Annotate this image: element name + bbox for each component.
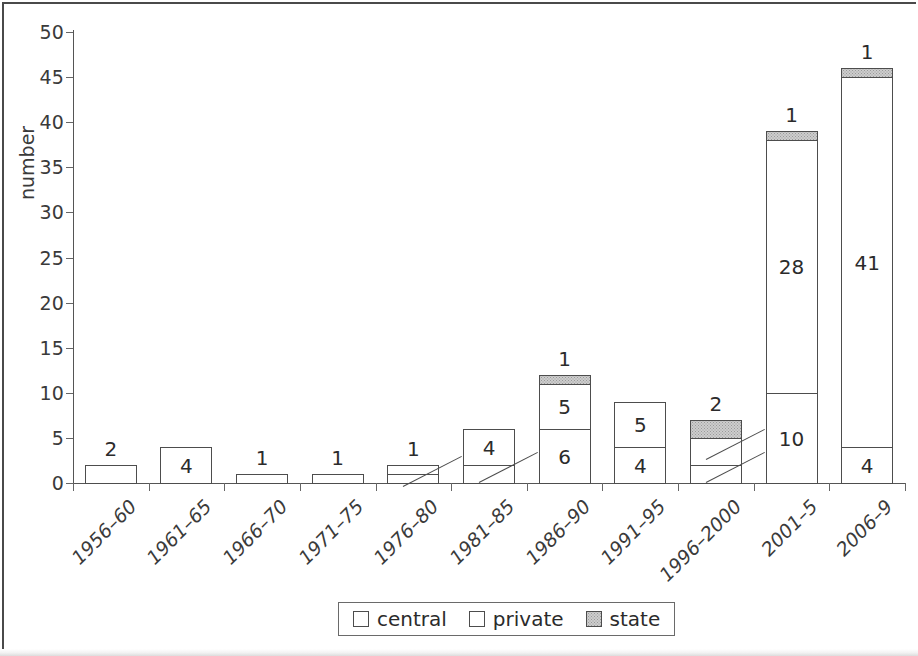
x-axis-label: 1961–65 bbox=[142, 495, 216, 569]
bar-segment-state[interactable] bbox=[766, 131, 818, 141]
bar-segment-value: 4 bbox=[634, 456, 647, 476]
x-tick-mark bbox=[300, 483, 301, 491]
x-axis-label: 1966–70 bbox=[218, 495, 292, 569]
x-tick-mark bbox=[754, 483, 755, 491]
legend-swatch-state bbox=[586, 611, 602, 627]
legend-swatch-central bbox=[353, 611, 369, 627]
figure-frame-top bbox=[2, 2, 916, 4]
bar-total-label: 1 bbox=[558, 347, 571, 371]
y-tick-label: 5 bbox=[52, 427, 64, 449]
bar-total-label: 1 bbox=[785, 103, 798, 127]
x-tick-mark bbox=[376, 483, 377, 491]
x-axis-label: 1971–75 bbox=[294, 495, 368, 569]
x-tick-mark bbox=[451, 483, 452, 491]
bar-segment-value: 4 bbox=[180, 456, 193, 476]
x-tick-mark bbox=[602, 483, 603, 491]
bar-segment-central[interactable] bbox=[85, 465, 137, 484]
bar-segment-value: 5 bbox=[558, 397, 571, 417]
y-tick-label: 50 bbox=[39, 21, 64, 43]
bar-segment-central[interactable]: 6 bbox=[539, 429, 591, 484]
y-tick-mark bbox=[66, 122, 73, 123]
bar-1961–65[interactable]: 4 bbox=[160, 447, 212, 483]
bar-segment-private[interactable]: 5 bbox=[539, 384, 591, 430]
bar-total-label: 2 bbox=[710, 392, 723, 416]
bar-segment-state[interactable] bbox=[690, 420, 742, 439]
bar-segment-central[interactable] bbox=[236, 474, 288, 484]
y-tick-mark bbox=[66, 348, 73, 349]
y-tick-label: 0 bbox=[52, 472, 64, 494]
bar-segment-central[interactable]: 4 bbox=[841, 447, 893, 484]
x-tick-mark bbox=[678, 483, 679, 491]
y-tick-mark bbox=[66, 258, 73, 259]
bar-1991–95[interactable]: 45 bbox=[614, 402, 666, 483]
legend-item-private[interactable]: private bbox=[469, 607, 564, 631]
bar-segment-private[interactable]: 41 bbox=[841, 77, 893, 448]
legend-swatch-private bbox=[469, 611, 485, 627]
x-axis-label: 1976–80 bbox=[369, 495, 443, 569]
x-axis-label: 1991–95 bbox=[596, 495, 670, 569]
bar-1986–90[interactable]: 65 bbox=[539, 375, 591, 483]
bar-segment-central[interactable]: 4 bbox=[160, 447, 212, 484]
bar-segment-private[interactable]: 28 bbox=[766, 140, 818, 394]
x-axis-label: 2006–9 bbox=[832, 495, 897, 560]
x-tick-mark bbox=[73, 483, 74, 491]
plot-area: 05101520253035404550 2411114265145232102… bbox=[73, 32, 905, 483]
figure-frame-left bbox=[2, 2, 4, 652]
bar-segment-private[interactable]: 4 bbox=[463, 429, 515, 466]
legend-label: central bbox=[377, 607, 447, 631]
bar-segment-value: 10 bbox=[779, 429, 804, 449]
y-tick-mark bbox=[66, 167, 73, 168]
x-tick-mark bbox=[224, 483, 225, 491]
bar-segment-central[interactable] bbox=[387, 474, 439, 484]
bar-segment-value: 41 bbox=[854, 253, 879, 273]
bar-segment-central[interactable] bbox=[312, 474, 364, 484]
bar-segment-state[interactable] bbox=[841, 68, 893, 78]
legend-item-central[interactable]: central bbox=[353, 607, 447, 631]
bar-segment-private[interactable] bbox=[690, 438, 742, 466]
y-tick-label: 40 bbox=[39, 111, 64, 133]
bar-segment-state[interactable] bbox=[539, 375, 591, 385]
bar-total-label: 1 bbox=[861, 40, 874, 64]
y-tick-label: 10 bbox=[39, 382, 64, 404]
y-tick-mark bbox=[66, 483, 73, 484]
y-axis-line bbox=[73, 30, 74, 485]
bar-2001–5[interactable]: 1028 bbox=[766, 131, 818, 483]
bar-total-label: 1 bbox=[407, 437, 420, 461]
y-tick-mark bbox=[66, 303, 73, 304]
y-tick-mark bbox=[66, 32, 73, 33]
y-tick-mark bbox=[66, 212, 73, 213]
bar-1971–75[interactable] bbox=[312, 474, 364, 483]
x-axis-label: 2001–5 bbox=[756, 495, 821, 560]
y-tick-mark bbox=[66, 393, 73, 394]
bar-total-label: 1 bbox=[256, 446, 269, 470]
y-axis-title: number bbox=[16, 126, 38, 200]
legend-item-state[interactable]: state bbox=[586, 607, 661, 631]
bar-segment-value: 4 bbox=[861, 456, 874, 476]
bar-segment-value: 6 bbox=[558, 447, 571, 467]
bar-segment-central[interactable]: 4 bbox=[614, 447, 666, 484]
x-axis-label: 1956–60 bbox=[67, 495, 141, 569]
bar-1966–70[interactable] bbox=[236, 474, 288, 483]
x-tick-mark bbox=[905, 483, 906, 491]
bar-segment-value: 4 bbox=[483, 438, 496, 458]
y-tick-mark bbox=[66, 438, 73, 439]
y-tick-label: 25 bbox=[39, 247, 64, 269]
bar-segment-value: 28 bbox=[779, 257, 804, 277]
bar-segment-private[interactable]: 5 bbox=[614, 402, 666, 448]
y-tick-label: 45 bbox=[39, 66, 64, 88]
bar-2006–9[interactable]: 441 bbox=[841, 68, 893, 483]
bar-1981–85[interactable]: 4 bbox=[463, 429, 515, 483]
bar-1996–2000[interactable] bbox=[690, 420, 742, 483]
bar-segment-central[interactable]: 10 bbox=[766, 393, 818, 484]
y-tick-label: 35 bbox=[39, 156, 64, 178]
chart-figure: number 05101520253035404550 241111426514… bbox=[0, 0, 918, 656]
x-tick-mark bbox=[527, 483, 528, 491]
y-tick-label: 20 bbox=[39, 292, 64, 314]
y-tick-label: 30 bbox=[39, 201, 64, 223]
bar-1956–60[interactable] bbox=[85, 465, 137, 483]
y-tick-label: 15 bbox=[39, 337, 64, 359]
figure-frame-bottom bbox=[0, 649, 918, 656]
y-tick-mark bbox=[66, 77, 73, 78]
x-axis-label: 1981–85 bbox=[445, 495, 519, 569]
bar-total-label: 2 bbox=[104, 437, 117, 461]
